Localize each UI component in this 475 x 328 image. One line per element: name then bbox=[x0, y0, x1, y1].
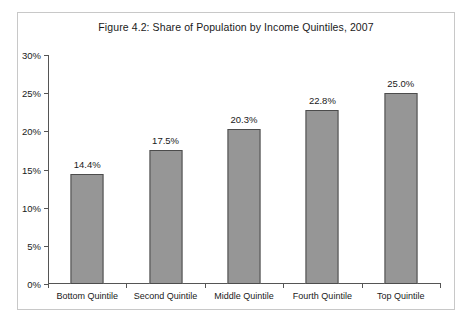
bar-group: 25.0%Top Quintile bbox=[362, 55, 440, 284]
bar[interactable] bbox=[306, 110, 339, 284]
x-axis-tick bbox=[440, 283, 441, 288]
figure-container: Figure 4.2: Share of Population by Incom… bbox=[17, 12, 455, 310]
bar-value-label: 14.4% bbox=[74, 159, 101, 170]
x-axis-category-label: Bottom Quintile bbox=[56, 291, 118, 301]
bar[interactable] bbox=[227, 129, 260, 284]
bar[interactable] bbox=[149, 150, 182, 284]
bar[interactable] bbox=[71, 174, 104, 284]
x-axis-category-label: Second Quintile bbox=[134, 291, 198, 301]
bar-group: 17.5%Second Quintile bbox=[126, 55, 204, 284]
bar-value-label: 20.3% bbox=[231, 114, 258, 125]
y-axis-tick-label: 20% bbox=[22, 126, 41, 137]
y-axis-tick-label: 25% bbox=[22, 88, 41, 99]
bar-group: 22.8%Fourth Quintile bbox=[283, 55, 361, 284]
x-axis-category-label: Middle Quintile bbox=[214, 291, 274, 301]
bar-value-label: 17.5% bbox=[152, 135, 179, 146]
chart-title: Figure 4.2: Share of Population by Incom… bbox=[18, 21, 454, 33]
x-axis-category-label: Fourth Quintile bbox=[293, 291, 352, 301]
x-axis-category-label: Top Quintile bbox=[377, 291, 425, 301]
y-axis-tick-label: 15% bbox=[22, 164, 41, 175]
bar-group: 14.4%Bottom Quintile bbox=[48, 55, 126, 284]
y-axis-tick-label: 30% bbox=[22, 50, 41, 61]
y-axis-tick-label: 10% bbox=[22, 202, 41, 213]
y-axis-tick-label: 0% bbox=[27, 279, 41, 290]
y-axis-tick-label: 5% bbox=[27, 240, 41, 251]
bar[interactable] bbox=[384, 93, 417, 284]
bar-group: 20.3%Middle Quintile bbox=[205, 55, 283, 284]
plot-area: 0%5%10%15%20%25%30% 14.4%Bottom Quintile… bbox=[48, 55, 440, 284]
bar-value-label: 22.8% bbox=[309, 95, 336, 106]
bar-value-label: 25.0% bbox=[387, 78, 414, 89]
